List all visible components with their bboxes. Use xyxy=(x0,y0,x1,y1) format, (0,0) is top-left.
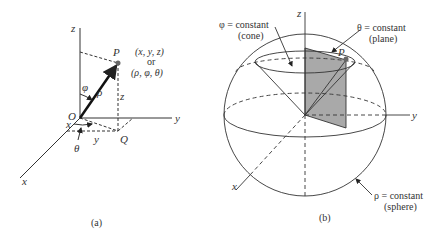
x-axis-b xyxy=(236,175,250,190)
rho-label: ρ xyxy=(96,86,102,98)
x-axis-label: x xyxy=(21,175,27,187)
spherical-coords: (ρ, φ, θ) xyxy=(131,67,164,79)
y-axis-label: y xyxy=(174,112,180,124)
y-proj-label: y xyxy=(93,133,99,145)
z-height-label: z xyxy=(119,90,125,102)
or-label: or xyxy=(147,56,156,67)
cone-label: φ = constant xyxy=(219,19,269,30)
x-axis-label-b: x xyxy=(231,180,237,192)
caption-a: (a) xyxy=(91,217,102,229)
theta-label: θ xyxy=(74,142,80,154)
point-p-dot xyxy=(116,61,121,66)
z-axis-label-b: z xyxy=(296,7,302,19)
cone-sub-label: (cone) xyxy=(238,30,264,42)
sphere-label: ρ = constant xyxy=(374,190,423,201)
z-axis-label: z xyxy=(70,22,76,34)
plane-label: θ = constant xyxy=(357,22,406,33)
y-axis-label-b: y xyxy=(411,109,417,121)
point-p-label: P xyxy=(112,46,120,58)
plane-sub-label: (plane) xyxy=(369,33,397,45)
caption-b: (b) xyxy=(319,212,331,224)
x-axis xyxy=(20,118,80,178)
point-p-label-b: P xyxy=(337,46,345,58)
phi-label: φ xyxy=(82,81,88,93)
x-proj-label: x xyxy=(65,118,71,130)
figure-canvas: z y x O P Q (x, y, z) or (ρ, φ, θ) ρ φ z… xyxy=(0,0,443,237)
sphere-sub-label: (sphere) xyxy=(384,201,417,213)
point-q-label: Q xyxy=(120,133,128,145)
